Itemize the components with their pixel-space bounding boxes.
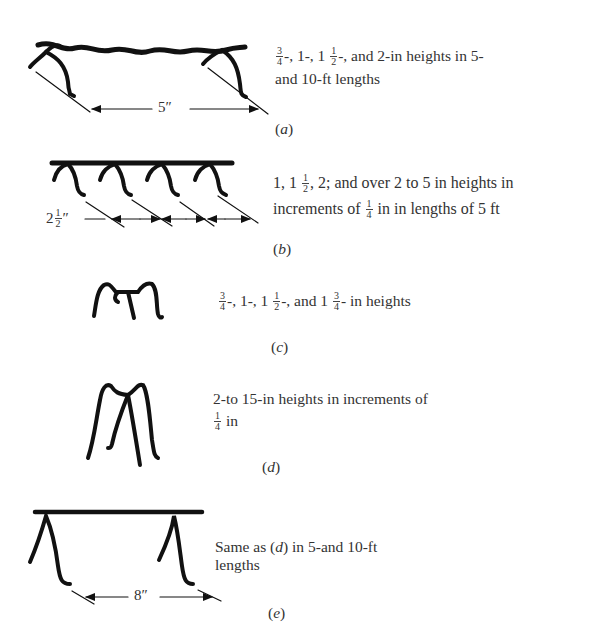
fraction-three-quarters: 34 (276, 46, 283, 67)
panel-a-dimension: 5″ (156, 99, 174, 116)
panel-a-description: 34-, 1-, 1 12-, and 2-in heights in 5- a… (275, 45, 595, 90)
fraction-three-quarters: 34 (333, 291, 340, 312)
panel-e-caption: (e) (268, 604, 285, 622)
beam-bolster-b-drawing (52, 163, 258, 227)
slab-chair-c-drawing (94, 283, 162, 318)
panel-b-description: 1, 1 12, 2; and over 2 to 5 in heights i… (273, 170, 600, 222)
slab-bolster-a-drawing (30, 44, 268, 114)
panel-d-caption: (d) (262, 458, 280, 476)
high-chair-d-drawing (88, 385, 158, 465)
fraction-one-half: 12 (302, 173, 309, 194)
fraction-one-quarter: 14 (214, 411, 221, 432)
panel-d-description: 2-to 15-in heights in increments of 14 i… (213, 388, 533, 433)
panel-b-caption: (b) (273, 240, 291, 258)
panel-c-description: 34-, 1-, 1 12-, and 1 34- in heights (218, 290, 538, 313)
fraction-three-quarters: 34 (219, 291, 226, 312)
continuous-high-chair-e-drawing (30, 512, 221, 604)
panel-c-caption: (c) (271, 338, 288, 356)
fraction-one-quarter: 14 (366, 199, 373, 220)
panel-a-caption: (a) (275, 120, 293, 138)
fraction-one-half: 12 (55, 208, 62, 229)
fraction-one-half: 12 (330, 46, 337, 67)
panel-e-description: Same as (d) in 5-and 10-ft lengths (215, 538, 535, 574)
panel-e-dimension: 8″ (132, 587, 150, 604)
panel-b-dimension: 212″ (46, 207, 69, 230)
fraction-one-half: 12 (273, 291, 280, 312)
